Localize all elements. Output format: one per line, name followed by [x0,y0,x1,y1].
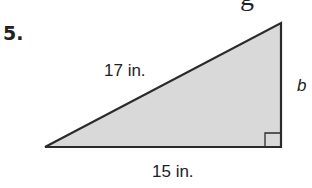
leg-b-label: b [297,76,306,96]
base-label: 15 in. [152,162,194,182]
problem-figure: g 5. 17 in. 15 in. b [0,0,312,188]
hypotenuse-label: 17 in. [104,61,146,81]
triangle-shape [45,23,281,147]
right-triangle [0,0,312,188]
